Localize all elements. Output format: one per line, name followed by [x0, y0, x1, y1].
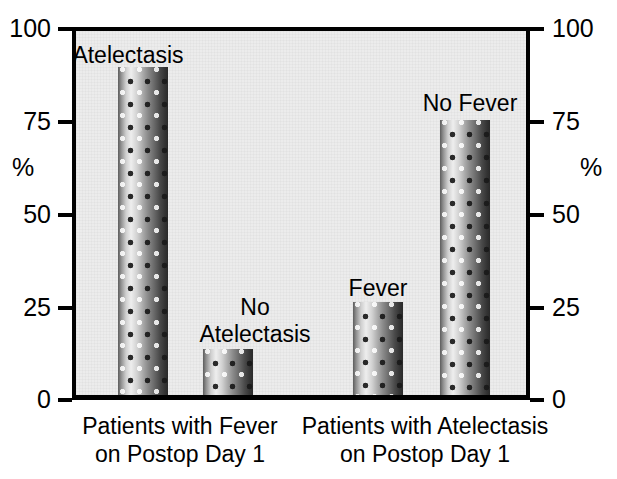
bar-label-fever: Fever	[308, 275, 448, 302]
ytick-label-left-50: 50	[23, 202, 51, 227]
x-group-label-fever: Patients with Fever on Postop Day 1	[60, 412, 300, 468]
ytick-label-right-100: 100	[552, 16, 594, 41]
tick-left-50	[58, 213, 72, 217]
tick-right-25	[530, 306, 544, 310]
tick-right-50	[530, 213, 544, 217]
tick-right-0	[530, 398, 544, 402]
tick-left-75	[58, 120, 72, 124]
bar-label-no-atelectasis: No Atelectasis	[175, 294, 335, 348]
tick-right-75	[530, 120, 544, 124]
y-axis-title-left: %	[12, 155, 34, 180]
ytick-label-left-75: 75	[23, 109, 51, 134]
ytick-label-right-50: 50	[552, 202, 580, 227]
ytick-label-right-25: 25	[552, 295, 580, 320]
ytick-label-left-25: 25	[23, 295, 51, 320]
tick-right-100	[530, 27, 544, 31]
y-axis-title-right: %	[580, 155, 602, 180]
bar-label-no-fever: No Fever	[395, 90, 545, 117]
tick-left-0	[58, 398, 72, 402]
x-group-label-atelectasis: Patients with Atelectasis on Postop Day …	[300, 412, 550, 468]
bar-label-atelectasis: Atelectasis	[58, 42, 198, 69]
tick-left-100	[58, 27, 72, 31]
ytick-label-right-0: 0	[552, 387, 566, 412]
tick-left-25	[58, 306, 72, 310]
ytick-label-right-75: 75	[552, 109, 580, 134]
ytick-label-left-0: 0	[37, 387, 51, 412]
bar-chart-figure: Atelectasis No Atelectasis Fever No Feve…	[0, 0, 617, 479]
ytick-label-left-100: 100	[9, 16, 51, 41]
